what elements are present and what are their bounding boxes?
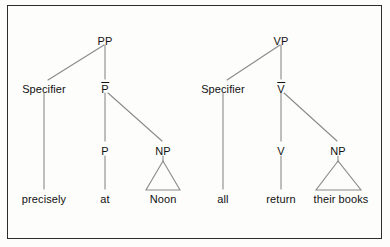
- node-np-complement-left: NP: [155, 145, 170, 157]
- leaf-their-books: their books: [314, 193, 369, 205]
- triangle-np-their-books: [316, 161, 361, 190]
- triangle-np-noon: [146, 161, 180, 190]
- node-v-head: V: [277, 145, 284, 157]
- branch-vbar-to-np: [284, 93, 337, 141]
- node-v-bar: V: [277, 83, 284, 95]
- leaf-at: at: [100, 193, 109, 205]
- leaf-precisely: precisely: [22, 193, 66, 205]
- node-v-bar-text: V: [277, 83, 284, 95]
- tree-branch-lines: [0, 0, 390, 247]
- node-p-head: P: [101, 145, 108, 157]
- node-vp-specifier: Specifier: [201, 83, 245, 95]
- leaf-all: all: [217, 193, 228, 205]
- node-pp-specifier: Specifier: [22, 83, 66, 95]
- branch-pbar-to-np: [108, 93, 162, 141]
- node-np-complement-right: NP: [330, 145, 345, 157]
- node-p-bar: P: [101, 83, 108, 95]
- node-vp-root: VP: [274, 35, 289, 47]
- branch-vp-to-specifier: [227, 45, 280, 80]
- leaf-return: return: [266, 193, 295, 205]
- overbar-v: [277, 82, 285, 83]
- node-pp-root: PP: [98, 35, 113, 47]
- figure-canvas: PP Specifier P P NP precisely at Noon VP…: [0, 0, 390, 247]
- branch-pp-to-specifier: [48, 45, 104, 80]
- leaf-noon: Noon: [150, 193, 177, 205]
- overbar-p: [101, 82, 109, 83]
- node-p-bar-text: P: [101, 83, 108, 95]
